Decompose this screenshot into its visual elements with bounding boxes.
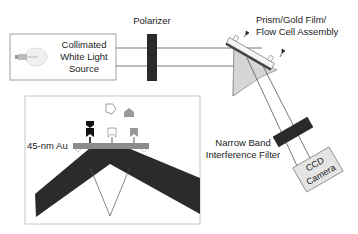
spr-setup-diagram: Collimated White Light Source Polarizer …: [0, 0, 358, 234]
prism-label-2: Flow Cell Assembly: [256, 26, 339, 37]
inset-detail: 45-nm Au: [25, 96, 200, 224]
prism-label-1: Prism/Gold Film/: [256, 14, 327, 25]
polarizer-label: Polarizer: [133, 15, 171, 26]
light-source-label-1: Collimated: [62, 39, 107, 50]
ccd-camera: CCD Camera: [293, 147, 343, 192]
gold-film-label: 45-nm Au: [27, 140, 68, 151]
light-source: Collimated White Light Source: [10, 34, 116, 80]
filter-label-1: Narrow Band: [215, 137, 270, 148]
filter-label-2: Interference Filter: [206, 149, 280, 160]
gold-film: [73, 143, 149, 149]
interference-filter: [273, 117, 314, 147]
light-source-label-2: White Light: [60, 51, 108, 62]
light-source-label-3: Source: [69, 63, 99, 74]
